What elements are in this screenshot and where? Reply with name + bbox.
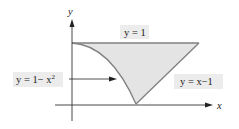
x-axis-arrow-icon (205, 103, 213, 108)
label-parabola: y = 1− x2 (16, 73, 55, 85)
pointer-arrow-icon (109, 77, 117, 82)
label-line: y = x−1 (180, 76, 213, 87)
label-parabola-exponent: 2 (51, 73, 55, 81)
shaded-region (72, 43, 199, 104)
label-top-line: y = 1 (124, 27, 146, 38)
region-diagram: y x y = 1 y = 1− x2 y = x−1 (0, 0, 239, 129)
y-axis-label: y (67, 6, 73, 17)
y-axis-arrow-icon (70, 19, 75, 27)
label-parabola-text: y = 1− x (16, 74, 52, 85)
x-axis-label: x (216, 100, 222, 111)
